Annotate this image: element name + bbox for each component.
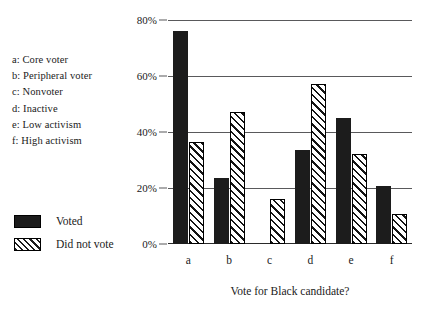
bar-b-voted: [214, 178, 229, 244]
category-key-item: f: High activism: [12, 133, 148, 149]
x-tick-label-a: a: [186, 254, 191, 266]
category-key-list: a: Core voter b: Peripheral voter c: Non…: [12, 52, 148, 149]
x-tick-label-e: e: [348, 254, 353, 266]
y-tick-label: 40%: [137, 126, 157, 138]
bar-b-did-not-vote: [230, 112, 245, 244]
y-tick-label: 20%: [137, 182, 157, 194]
legend-entry-did-not-vote: Did not vote: [14, 234, 149, 254]
legend-label-did-not-vote: Did not vote: [56, 238, 114, 250]
y-tick-mark: [159, 76, 167, 77]
bar-d-did-not-vote: [311, 84, 326, 244]
legend-swatch-solid-icon: [14, 215, 41, 228]
y-tick-label: 80%: [137, 14, 157, 26]
plot-area: 0%20%40%60%80% abcdef: [168, 20, 412, 244]
x-tick-label-b: b: [226, 254, 232, 266]
x-tick-label-d: d: [307, 254, 313, 266]
bar-d-voted: [295, 150, 310, 244]
x-axis-title: Vote for Black candidate?: [168, 285, 412, 297]
y-tick-mark: [159, 20, 167, 21]
bar-series-container: [168, 20, 412, 244]
bar-c-did-not-vote: [270, 199, 285, 244]
bar-a-did-not-vote: [189, 142, 204, 244]
bar-chart: 0%20%40%60%80% abcdef Vote for Black can…: [150, 0, 433, 312]
y-tick-label: 0%: [142, 238, 157, 250]
category-key-item: e: Low activism: [12, 117, 148, 133]
category-key-item: d: Inactive: [12, 101, 148, 117]
bar-e-voted: [336, 118, 351, 244]
legend-label-voted: Voted: [56, 215, 83, 227]
y-tick-label: 60%: [137, 70, 157, 82]
bar-f-voted: [376, 186, 391, 244]
y-tick-mark: [159, 188, 167, 189]
y-tick-mark: [159, 244, 167, 245]
x-tick-label-c: c: [267, 254, 272, 266]
bar-f-did-not-vote: [392, 214, 407, 244]
series-legend: Voted Did not vote: [14, 211, 149, 257]
category-key-item: b: Peripheral voter: [12, 68, 148, 84]
legend-entry-voted: Voted: [14, 211, 149, 231]
x-tick-label-f: f: [390, 254, 394, 266]
bar-a-voted: [173, 31, 188, 244]
category-key-item: c: Nonvoter: [12, 84, 148, 100]
legend-swatch-hatch-icon: [14, 238, 41, 251]
bar-e-did-not-vote: [352, 154, 367, 244]
y-tick-mark: [159, 132, 167, 133]
category-key-item: a: Core voter: [12, 52, 148, 68]
left-key-panel: a: Core voter b: Peripheral voter c: Non…: [0, 0, 150, 312]
